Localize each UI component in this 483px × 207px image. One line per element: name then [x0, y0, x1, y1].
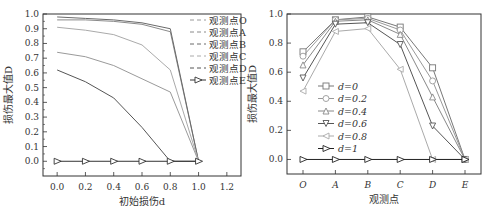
x-tick-label: 0.6	[135, 182, 150, 192]
left-chart: 0.00.10.20.30.40.50.60.70.80.91.00.00.20…	[2, 9, 247, 207]
x-tick-label: A	[331, 180, 339, 190]
legend-item: d=0	[318, 81, 358, 92]
triangle-marker	[54, 158, 61, 164]
x-tick-label: 1.0	[191, 182, 206, 192]
legend-label: d=1	[338, 143, 358, 154]
legend-square-icon	[323, 83, 329, 89]
y-tick-label: 0.4	[25, 97, 40, 107]
y-axis-label: 损伤最大值D	[246, 65, 258, 123]
legend-label: 观测点D	[209, 63, 247, 74]
legend-item: d=1	[318, 143, 358, 154]
triangle-down-marker	[397, 42, 403, 48]
triangle-right-marker	[397, 156, 404, 162]
legend-label: 观测点A	[209, 27, 246, 38]
square-marker	[430, 65, 436, 71]
legend-label: 观测点E	[209, 75, 246, 86]
y-tick-label: 0.5	[25, 83, 40, 93]
triangle-marker	[111, 158, 118, 164]
triangle-marker	[196, 158, 203, 164]
legend-item: 观测点B	[190, 39, 246, 50]
x-axis-label: 初始损伤d	[119, 195, 166, 207]
legend-item: 观测点O	[190, 15, 247, 26]
legend-label: 观测点B	[209, 39, 246, 50]
legend-item: d=0.8	[318, 131, 367, 142]
y-tick-label: 0.2	[25, 127, 39, 137]
legend-item: d=0.4	[318, 106, 367, 117]
y-tick-label: 0.9	[25, 24, 40, 34]
series-line	[303, 29, 465, 160]
legend-item: d=0.6	[318, 118, 367, 129]
y-tick-label: 0.1	[25, 142, 39, 152]
circle-marker	[430, 78, 436, 84]
triangle-right-marker	[365, 156, 372, 162]
x-tick-label: 0.4	[107, 182, 122, 192]
legend-label: d=0.2	[338, 93, 367, 104]
y-tick-label: 0.8	[25, 38, 40, 48]
y-axis-label: 损伤最大值D	[2, 66, 14, 124]
legend-triangle-right-icon	[323, 146, 330, 152]
legend-circle-icon	[323, 96, 329, 102]
legend-item: 观测点E	[190, 75, 246, 86]
legend-item: 观测点A	[190, 27, 246, 38]
triangle-marker	[82, 158, 89, 164]
right-chart: 0.00.20.40.60.81.0OABCDE观测点损伤最大值Dd=0d=0.…	[246, 9, 481, 205]
circle-marker	[300, 53, 306, 59]
legend-item: 观测点D	[190, 63, 247, 74]
legend-label: d=0.4	[338, 106, 367, 117]
triangle-left-marker	[332, 28, 338, 34]
y-tick-label: 0.2	[269, 125, 283, 135]
triangle-marker	[167, 158, 174, 164]
x-tick-label: 1.2	[220, 182, 234, 192]
series-line	[57, 20, 198, 161]
plot-frame	[287, 14, 481, 174]
y-tick-label: 1.0	[25, 9, 40, 19]
x-tick-label: O	[299, 180, 307, 190]
triangle-up-marker	[430, 94, 436, 100]
x-tick-label: C	[397, 180, 404, 190]
x-tick-label: D	[428, 180, 436, 190]
y-tick-label: 0.0	[269, 154, 284, 164]
x-tick-label: B	[363, 180, 371, 190]
triangle-down-marker	[300, 75, 306, 81]
series-line	[57, 70, 198, 161]
triangle-marker	[139, 158, 146, 164]
x-tick-label: 0.2	[78, 182, 92, 192]
series-line	[57, 27, 198, 161]
figure: 0.00.10.20.30.40.50.60.70.80.91.00.00.20…	[0, 0, 483, 207]
x-tick-label: E	[461, 180, 469, 190]
x-axis-label: 观测点	[369, 193, 399, 205]
triangle-right-marker	[300, 156, 307, 162]
y-tick-label: 0.3	[25, 112, 40, 122]
y-tick-label: 0.7	[25, 53, 40, 63]
y-tick-label: 0.4	[269, 96, 284, 106]
y-tick-label: 0.6	[25, 68, 40, 78]
legend-item: d=0.2	[318, 93, 367, 104]
x-tick-label: 0.0	[50, 182, 65, 192]
x-tick-label: 0.8	[163, 182, 178, 192]
legend-label: d=0.8	[338, 131, 367, 142]
legend-triangle-icon	[195, 77, 202, 83]
legend-triangle-left-icon	[323, 133, 329, 139]
triangle-right-marker	[332, 156, 339, 162]
y-tick-label: 0.0	[25, 156, 40, 166]
y-tick-label: 0.8	[269, 38, 284, 48]
series-line	[57, 52, 198, 161]
y-tick-label: 1.0	[269, 9, 284, 19]
series-line	[57, 17, 198, 161]
legend-label: d=0.6	[338, 118, 367, 129]
legend-label: d=0	[338, 81, 358, 92]
y-tick-label: 0.6	[269, 67, 284, 77]
triangle-left-marker	[300, 88, 306, 94]
legend-item: 观测点C	[190, 51, 246, 62]
legend-label: 观测点O	[209, 15, 247, 26]
legend-label: 观测点C	[209, 51, 246, 62]
